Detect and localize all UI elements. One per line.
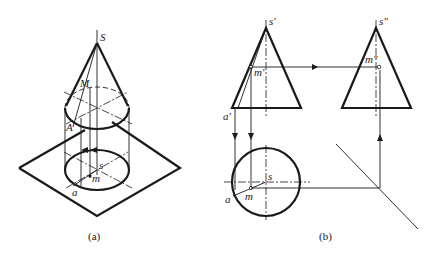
figure-a-isometric: S M A s m a (a) xyxy=(19,30,180,243)
point-m-side xyxy=(377,65,381,69)
label-m-top: m xyxy=(245,190,253,202)
label-a-prime: a′ xyxy=(223,110,232,122)
diagram-canvas: S M A s m a (a) xyxy=(0,0,429,255)
arrow-down-icon xyxy=(248,133,254,140)
arrow-up-icon xyxy=(377,134,383,141)
side-view-cone xyxy=(342,28,411,108)
cone-right-generatrix xyxy=(97,43,128,106)
label-a: a xyxy=(72,186,78,198)
figure-b-orthographic: s′ m′ a′ s″ m″ s m a (b) xyxy=(223,15,418,243)
arrow-right-icon xyxy=(312,64,318,70)
arrow-down-icon xyxy=(232,133,238,140)
label-M: M xyxy=(79,77,90,89)
label-a-top: a xyxy=(225,193,231,205)
label-S: S xyxy=(100,31,106,43)
miter-line-45 xyxy=(336,144,418,229)
base-centerline-1 xyxy=(64,92,132,124)
label-s-double-prime: s″ xyxy=(379,15,388,27)
label-A: A xyxy=(65,121,73,133)
caption-b: (b) xyxy=(319,230,332,243)
caption-a: (a) xyxy=(88,230,101,243)
label-m: m xyxy=(92,172,100,184)
label-s-top: s xyxy=(268,170,272,182)
label-s: s xyxy=(99,159,103,171)
label-m-prime: m′ xyxy=(254,66,265,78)
label-s-prime: s′ xyxy=(269,15,276,27)
label-m-double-prime: m″ xyxy=(365,53,378,65)
